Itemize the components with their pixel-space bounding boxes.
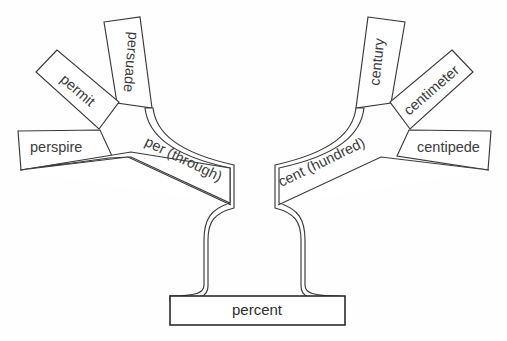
branch-centipede-label: centipede bbox=[417, 139, 480, 155]
diagram-canvas: persuade permit perspire per (through) c… bbox=[0, 0, 507, 341]
stem-cent bbox=[275, 108, 364, 300]
word-root-tree-diagram: persuade permit perspire per (through) c… bbox=[0, 0, 507, 341]
branch-persuade: persuade bbox=[104, 17, 152, 108]
root-percent: percent bbox=[170, 296, 345, 325]
root-percent-label: percent bbox=[232, 301, 283, 318]
stem-cent-shape bbox=[275, 108, 364, 300]
branch-centimeter: centimeter bbox=[390, 50, 473, 129]
branch-perspire-label: perspire bbox=[30, 139, 82, 155]
branch-permit: permit bbox=[36, 50, 119, 129]
branch-century: century bbox=[356, 17, 405, 108]
